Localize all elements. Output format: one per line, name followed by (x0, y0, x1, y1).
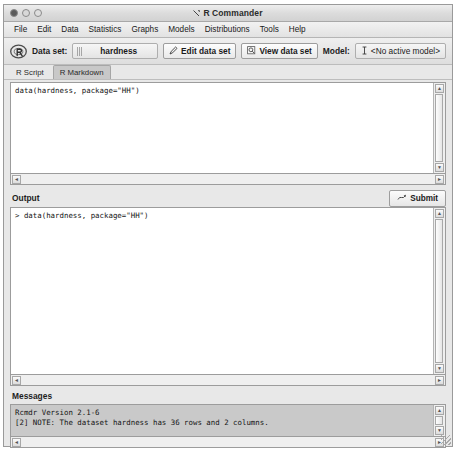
window-controls (10, 9, 42, 17)
messages-pane-wrap: Rcmdr Version 2.1-6 [2] NOTE: The datase… (4, 404, 452, 448)
script-scroll-right-arrow[interactable]: ► (435, 175, 444, 184)
menu-tools[interactable]: Tools (255, 23, 284, 37)
output-scroll-up-arrow[interactable]: ▲ (435, 209, 444, 218)
tab-strip: R Script R Markdown (4, 65, 452, 80)
submit-label: Submit (410, 194, 438, 203)
model-icon (361, 46, 368, 57)
title-bar: R Commander (4, 5, 452, 22)
output-text[interactable]: > data(hardness, package="HH") (11, 208, 433, 374)
menu-data[interactable]: Data (56, 23, 83, 37)
menu-graphs[interactable]: Graphs (126, 23, 163, 37)
model-value: <No active model> (371, 46, 440, 56)
menu-distributions[interactable]: Distributions (200, 23, 255, 37)
close-button[interactable] (10, 9, 18, 17)
messages-header-label: Messages (12, 391, 52, 401)
messages-pane[interactable]: Rcmdr Version 2.1-6 [2] NOTE: The datase… (10, 404, 446, 437)
output-horizontal-scrollbar[interactable]: ◄ ► (11, 375, 445, 385)
messages-horizontal-scrollbar[interactable]: ◄ ► (11, 437, 445, 447)
output-scroll-right-arrow[interactable]: ► (435, 376, 444, 385)
script-scroll-track[interactable] (434, 94, 445, 162)
window-resize-grip[interactable] (441, 435, 451, 445)
tab-r-script-label: R Script (16, 68, 44, 77)
messages-scroll-track[interactable] (434, 416, 445, 425)
messages-scroll-left-arrow[interactable]: ◄ (12, 438, 21, 447)
output-pane[interactable]: > data(hardness, package="HH") ▲ ▼ (10, 207, 446, 375)
minimize-button[interactable] (22, 9, 30, 17)
script-scroll-thumb[interactable] (435, 94, 443, 162)
menu-edit[interactable]: Edit (32, 23, 56, 37)
toolbar: Data set: hardness Edit data set (4, 38, 452, 65)
edit-data-set-label: Edit data set (181, 46, 230, 56)
output-horizontal-scrollbar-row[interactable]: ◄ ► (10, 375, 446, 386)
window-title-wrap: R Commander (4, 8, 452, 19)
menu-help[interactable]: Help (284, 23, 311, 37)
tab-r-markdown[interactable]: R Markdown (53, 65, 111, 79)
messages-scroll-down-arrow[interactable]: ▼ (435, 426, 444, 435)
output-scroll-left-arrow[interactable]: ◄ (12, 376, 21, 385)
screenshot-root: R Commander File Edit Data Statistics Gr… (0, 0, 456, 454)
r-commander-icon (193, 9, 200, 19)
script-editor-text[interactable]: data(hardness, package="HH") (11, 83, 433, 173)
messages-header: Messages (4, 388, 452, 404)
submit-icon (397, 193, 407, 204)
output-pane-wrap: > data(hardness, package="HH") ▲ ▼ ◄ ► (4, 207, 452, 386)
r-logo-icon (10, 44, 27, 59)
script-scroll-down-arrow[interactable]: ▼ (435, 163, 444, 172)
model-button[interactable]: <No active model> (355, 43, 446, 59)
menu-file[interactable]: File (9, 23, 32, 37)
menu-models[interactable]: Models (163, 23, 199, 37)
menu-bar: File Edit Data Statistics Graphs Models … (4, 22, 452, 38)
script-horizontal-scrollbar-row[interactable]: ◄ ► (10, 174, 446, 185)
messages-horizontal-scrollbar-row[interactable]: ◄ ► (10, 437, 446, 448)
r-commander-window: R Commander File Edit Data Statistics Gr… (3, 4, 453, 447)
dataset-grip-icon (77, 47, 82, 56)
window-title: R Commander (203, 8, 262, 18)
output-hscroll-track[interactable] (22, 375, 434, 385)
script-vertical-scrollbar[interactable]: ▲ ▼ (433, 83, 445, 173)
view-data-set-label: View data set (259, 46, 311, 56)
output-scroll-thumb[interactable] (435, 219, 443, 363)
magnifier-icon (247, 46, 256, 57)
tab-r-markdown-label: R Markdown (60, 68, 104, 77)
messages-scroll-thumb[interactable] (435, 416, 443, 425)
menu-statistics[interactable]: Statistics (84, 23, 127, 37)
zoom-button[interactable] (34, 9, 42, 17)
messages-text: Rcmdr Version 2.1-6 [2] NOTE: The datase… (11, 405, 433, 436)
messages-vertical-scrollbar[interactable]: ▲ ▼ (433, 405, 445, 436)
dataset-button[interactable]: hardness (72, 43, 158, 59)
script-hscroll-track[interactable] (22, 174, 434, 184)
script-scroll-left-arrow[interactable]: ◄ (12, 175, 21, 184)
view-data-set-button[interactable]: View data set (241, 43, 317, 59)
script-horizontal-scrollbar[interactable]: ◄ ► (11, 174, 445, 184)
script-pane-wrap: data(hardness, package="HH") ▲ ▼ ◄ ► (4, 80, 452, 185)
output-vertical-scrollbar[interactable]: ▲ ▼ (433, 208, 445, 374)
pencil-icon (169, 46, 178, 57)
messages-hscroll-track[interactable] (22, 437, 434, 447)
tab-r-script[interactable]: R Script (9, 65, 51, 79)
output-scroll-down-arrow[interactable]: ▼ (435, 364, 444, 373)
script-editor[interactable]: data(hardness, package="HH") ▲ ▼ (10, 82, 446, 174)
model-label: Model: (323, 46, 350, 56)
edit-data-set-button[interactable]: Edit data set (163, 43, 236, 59)
output-scroll-track[interactable] (434, 219, 445, 363)
output-header: Output Submit (4, 189, 452, 207)
script-scroll-up-arrow[interactable]: ▲ (435, 84, 444, 93)
dataset-label: Data set: (32, 46, 67, 56)
dataset-value: hardness (85, 46, 152, 56)
output-header-label: Output (12, 193, 39, 203)
submit-button[interactable]: Submit (389, 190, 446, 207)
messages-scroll-up-arrow[interactable]: ▲ (435, 406, 444, 415)
